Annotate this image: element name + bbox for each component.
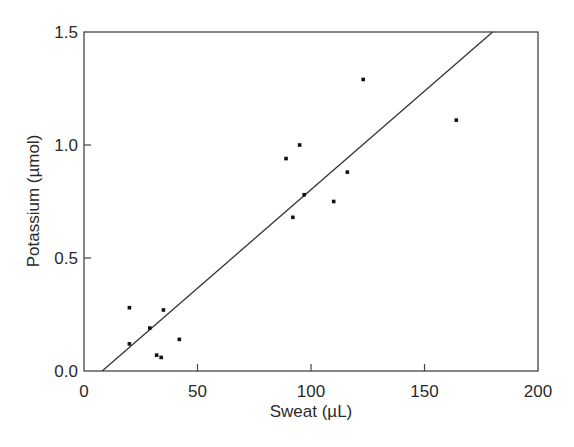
plot-frame — [84, 32, 538, 371]
data-point — [178, 338, 182, 342]
data-point — [159, 356, 163, 360]
y-tick-label: 1.5 — [54, 23, 78, 42]
data-point — [284, 157, 288, 161]
y-tick-label: 1.0 — [54, 136, 78, 155]
data-point — [128, 342, 132, 346]
x-axis-title: Sweat (µL) — [270, 402, 353, 421]
data-point — [128, 306, 132, 310]
scatter-chart: 050100150200 0.00.51.01.5 Sweat (µL) Pot… — [0, 0, 574, 447]
data-point — [332, 200, 336, 204]
y-axis: 0.00.51.01.5 — [54, 23, 91, 381]
data-point — [162, 308, 166, 312]
data-point — [148, 326, 152, 330]
data-point — [298, 143, 302, 147]
x-tick-label: 200 — [524, 382, 552, 401]
x-tick-label: 50 — [188, 382, 207, 401]
regression-line — [102, 32, 492, 371]
data-point — [155, 353, 159, 357]
data-point — [346, 170, 350, 174]
x-axis: 050100150200 — [79, 364, 552, 401]
data-point — [302, 193, 306, 197]
data-point — [291, 216, 295, 220]
x-tick-label: 0 — [79, 382, 88, 401]
y-tick-label: 0.5 — [54, 249, 78, 268]
y-tick-label: 0.0 — [54, 362, 78, 381]
data-points — [128, 78, 458, 360]
y-axis-title: Potassium (µmol) — [24, 135, 43, 268]
data-point — [454, 118, 458, 122]
x-tick-label: 100 — [297, 382, 325, 401]
x-tick-label: 150 — [410, 382, 438, 401]
data-point — [361, 78, 365, 82]
